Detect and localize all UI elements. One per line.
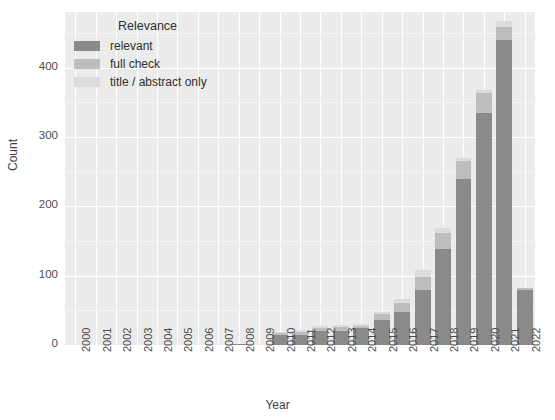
x-tick-label: 2006 [203,328,215,352]
bar-segment-title-abstract-only [456,158,472,161]
x-tick-label: 2019 [468,328,480,352]
legend-item-label: full check [110,57,160,71]
x-tick-label: 2004 [162,328,174,352]
bar-segment-relevant [496,40,512,345]
bar-segment-full-check [476,93,492,112]
gridline-vertical [402,12,403,345]
x-tick-label: 2016 [407,328,419,352]
bar-segment-title-abstract-only [496,21,512,27]
bar-segment-title-abstract-only [353,324,369,325]
top-edge-artifact [0,0,555,8]
bar-2019 [456,158,472,345]
x-tick-label: 2005 [182,328,194,352]
bar-segment-full-check [496,27,512,39]
x-tick-label: 2015 [387,328,399,352]
bar-segment-title-abstract-only [374,312,390,315]
x-tick-label: 2018 [448,328,460,352]
bar-chart: 0100200300400 Count 20002001200220032004… [0,0,555,420]
bar-segment-title-abstract-only [435,228,451,232]
bar-segment-relevant [456,179,472,346]
legend-swatch-icon [74,77,100,87]
bar-segment-title-abstract-only [476,90,492,93]
bar-segment-title-abstract-only [394,299,410,304]
x-tick-label: 2020 [489,328,501,352]
legend-item-label: title / abstract only [110,75,207,89]
x-tick-label: 2011 [305,328,317,352]
legend-title: Relevance [118,19,207,33]
gridline-vertical [320,12,321,345]
bar-segment-title-abstract-only [415,270,431,277]
legend-item-relevant[interactable]: relevant [74,37,207,54]
bar-2020 [476,90,492,345]
x-tick-label: 2013 [346,328,358,352]
x-tick-label: 2014 [366,328,378,352]
legend-item-title-abstract-only[interactable]: title / abstract only [74,73,207,90]
y-tick-label: 100 [20,268,58,280]
legend: Relevance relevantfull checktitle / abst… [68,14,216,98]
bar-segment-full-check [394,303,410,311]
y-axis-label-wrap: Count [2,0,22,345]
y-tick-label: 0 [20,337,58,349]
legend-item-full-check[interactable]: full check [74,55,207,72]
gridline-vertical [382,12,383,345]
y-tick-label: 200 [20,198,58,210]
x-tick-label: 2009 [264,328,276,352]
gridline-vertical [239,12,240,345]
gridline-vertical [341,12,342,345]
x-tick-label: 2010 [285,328,297,352]
bar-segment-full-check [456,161,472,178]
y-tick-label: 400 [20,60,58,72]
gridline-vertical [280,12,281,345]
gridline-vertical [361,12,362,345]
x-axis-label: Year [0,398,555,412]
x-tick-label: 2003 [142,328,154,352]
legend-item-label: relevant [110,39,153,53]
x-tick-label: 2000 [80,328,92,352]
x-tick-label: 2012 [325,328,337,352]
bar-2021 [496,21,512,345]
bar-segment-full-check [415,277,431,289]
x-tick-label: 2022 [530,328,542,352]
legend-swatch-icon [74,59,100,69]
x-tick-label: 2002 [121,328,133,352]
x-tick-label: 2008 [244,328,256,352]
gridline-vertical [300,12,301,345]
x-tick-label: 2021 [509,328,521,352]
gridline-vertical [259,12,260,345]
legend-entries: relevantfull checktitle / abstract only [74,37,207,90]
x-tick-label: 2001 [101,328,113,352]
bar-segment-full-check [435,233,451,250]
gridline-vertical [218,12,219,345]
bar-segment-relevant [476,113,492,345]
bar-segment-full-check [517,288,533,289]
x-tick-label: 2017 [428,328,440,352]
bar-segment-full-check [374,314,390,320]
x-tick-label: 2007 [223,328,235,352]
y-axis-label: Count [6,110,20,200]
y-tick-label: 300 [20,129,58,141]
legend-swatch-icon [74,41,100,51]
